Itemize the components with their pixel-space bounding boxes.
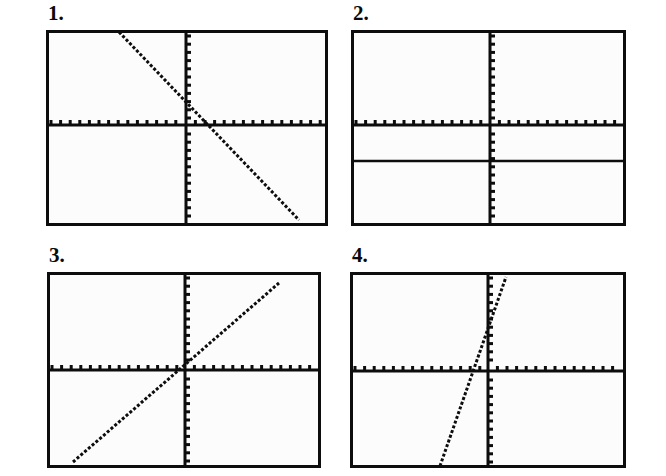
graph-label-1: 1.: [48, 3, 64, 24]
calculator-screen-3: [47, 272, 321, 468]
plotted-line: [73, 283, 279, 462]
graph-svg-1: [49, 33, 325, 223]
calculator-screen-4: [350, 272, 626, 468]
calculator-screen-2: [351, 30, 626, 226]
graph-label-3: 3.: [49, 245, 65, 266]
graph-label-4: 4.: [352, 245, 368, 266]
graph-svg-4: [353, 275, 623, 465]
graph-svg-2: [354, 33, 623, 223]
worksheet-page: 1.: [0, 0, 666, 476]
calculator-screen-1: [46, 30, 328, 226]
graph-svg-3: [50, 275, 318, 465]
graph-label-2: 2.: [353, 3, 369, 24]
